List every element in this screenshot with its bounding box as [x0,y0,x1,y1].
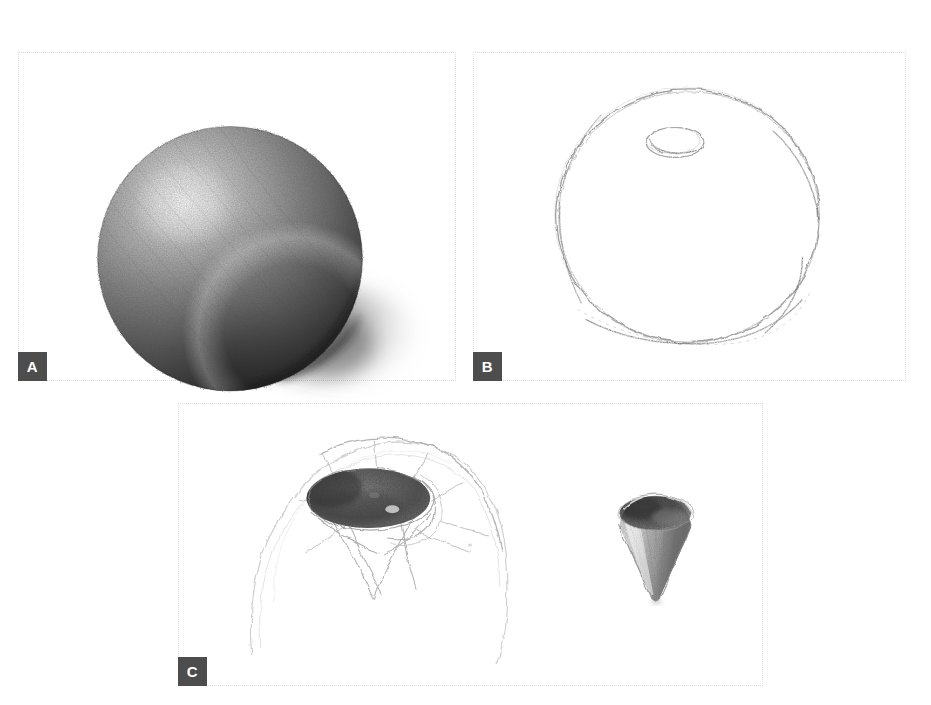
stem-cavity [295,468,443,546]
panel-a-artwork [19,53,455,380]
figure-plate: A [0,0,931,705]
panel-b-artwork [474,53,905,380]
dome-with-stem-cavity [251,438,508,664]
stem-cavity-oval [646,128,704,158]
panel-label-a-text: A [27,359,38,374]
outline-circle [555,88,820,345]
panel-a [18,52,456,381]
cone-funnel [608,491,708,610]
cone-rim [617,495,692,531]
panel-label-c-text: C [187,664,198,679]
panel-b [473,52,906,381]
panel-label-a: A [18,352,47,381]
panel-label-b-text: B [482,359,493,374]
panel-c [178,403,763,686]
panel-label-b: B [473,352,502,381]
panel-label-c: C [178,657,207,686]
panel-c-artwork [179,404,762,685]
stray-mark [468,543,472,546]
